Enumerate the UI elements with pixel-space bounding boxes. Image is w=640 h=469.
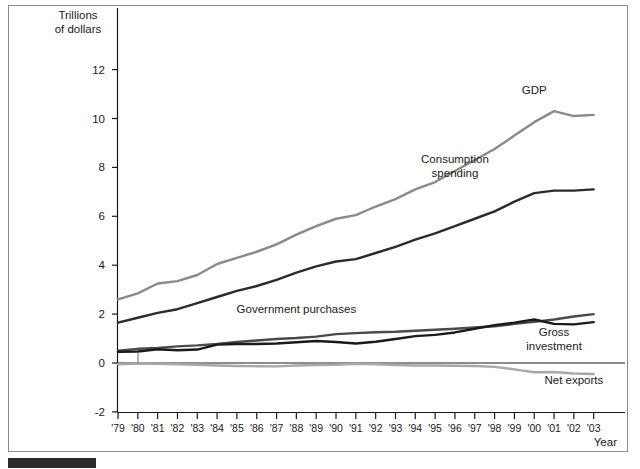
annotation-consumption-spending: Consumptionspending — [421, 153, 489, 179]
y-tick-label: 8 — [99, 161, 105, 173]
x-tick-label: '81 — [151, 422, 165, 434]
annotation-text: spending — [432, 167, 479, 179]
y-tick-label: 10 — [92, 113, 105, 125]
annotation-text: Government purchases — [237, 303, 357, 315]
y-tick-label: 2 — [99, 308, 105, 320]
x-tick-label: '79 — [111, 422, 125, 434]
x-tick-label: '86 — [250, 422, 264, 434]
x-tick-label: '90 — [329, 422, 343, 434]
x-tick-label: '88 — [290, 422, 304, 434]
x-tick-label: '83 — [190, 422, 204, 434]
x-tick-label: '80 — [131, 422, 145, 434]
x-tick-label: '94 — [408, 422, 422, 434]
y-tick-label: 4 — [99, 259, 106, 271]
series-line-government-purchases — [118, 314, 594, 351]
annotation-text: investment — [526, 340, 582, 352]
x-tick-label: '03 — [587, 422, 601, 434]
series-annotations: GDPConsumptionspendingGovernment purchas… — [237, 84, 604, 386]
series-lines — [118, 111, 594, 374]
x-tick-label: '98 — [488, 422, 502, 434]
x-tick-label: '01 — [547, 422, 561, 434]
x-tick-label: '02 — [567, 422, 581, 434]
series-line-gdp — [118, 111, 594, 299]
source-rule-bar — [8, 458, 96, 468]
figure-root: Trillions of dollars 121086420-2 '79'80'… — [0, 0, 640, 469]
y-tick-label: 6 — [99, 210, 105, 222]
annotation-text: GDP — [522, 84, 547, 96]
x-axis-label: Year — [594, 436, 617, 448]
x-tick-label: '84 — [210, 422, 224, 434]
annotation-text: Net exports — [544, 374, 603, 386]
x-tick-label: '85 — [230, 422, 244, 434]
y-tick-label: -2 — [95, 406, 105, 418]
annotation-gdp: GDP — [522, 84, 547, 96]
y-tick-label: 0 — [99, 357, 105, 369]
series-line-net-exports — [118, 363, 594, 374]
chart-canvas: Trillions of dollars 121086420-2 '79'80'… — [0, 0, 640, 469]
x-tick-label: '95 — [428, 422, 442, 434]
x-tick-label: '00 — [527, 422, 541, 434]
x-tick-label: '89 — [309, 422, 323, 434]
x-tick-label: '92 — [369, 422, 383, 434]
annotation-text: Gross — [539, 326, 570, 338]
y-axis-title-line2: of dollars — [55, 23, 102, 35]
x-axis-ticks: '79'80'81'82'83'84'85'86'87'88'89'90'91'… — [111, 412, 601, 434]
x-tick-label: '91 — [349, 422, 363, 434]
x-tick-label: '96 — [448, 422, 462, 434]
x-tick-label: '82 — [171, 422, 185, 434]
annotation-net-exports: Net exports — [544, 374, 603, 386]
x-tick-label: '99 — [508, 422, 522, 434]
annotation-gross-investment: Grossinvestment — [526, 326, 582, 352]
y-axis-title-line1: Trillions — [58, 9, 97, 21]
x-tick-label: '87 — [270, 422, 284, 434]
y-axis-ticks: 121086420-2 — [92, 64, 118, 418]
y-tick-label: 12 — [92, 64, 105, 76]
x-tick-label: '93 — [389, 422, 403, 434]
x-tick-label: '97 — [468, 422, 482, 434]
annotation-government-purchases: Government purchases — [237, 303, 357, 315]
annotation-text: Consumption — [421, 153, 489, 165]
